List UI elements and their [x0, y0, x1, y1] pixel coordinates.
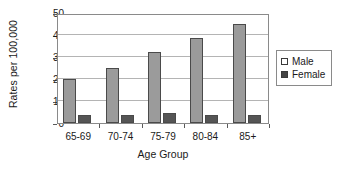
bar-male-85+ [233, 24, 246, 123]
bar-female-80-84 [205, 115, 218, 123]
x-tick-mark [99, 124, 100, 128]
legend-item-male[interactable]: Male [281, 55, 328, 68]
bar-group [58, 15, 100, 123]
bars-layer [58, 15, 268, 123]
y-axis-title: Rates per 100,000 [7, 9, 19, 119]
bar-group [143, 15, 185, 123]
bar-female-85+ [248, 115, 261, 123]
x-tick-mark [184, 124, 185, 128]
x-tick-label: 70-74 [99, 131, 143, 142]
legend-swatch-icon [281, 58, 288, 65]
legend-label: Female [292, 69, 325, 80]
bar-female-70-74 [121, 115, 134, 123]
bar-male-70-74 [106, 68, 119, 123]
plot-area [57, 14, 269, 124]
chart-legend: MaleFemale [276, 50, 332, 86]
legend-item-female[interactable]: Female [281, 68, 328, 81]
bar-male-65-69 [63, 79, 76, 123]
bar-female-75-79 [163, 113, 176, 123]
x-tick-mark [142, 124, 143, 128]
legend-label: Male [292, 56, 314, 67]
bar-group [228, 15, 270, 123]
bar-male-80-84 [190, 38, 203, 123]
x-tick-label: 75-79 [141, 131, 185, 142]
x-tick-mark [227, 124, 228, 128]
x-tick-mark [269, 124, 270, 128]
x-tick-label: 65-69 [56, 131, 100, 142]
bar-male-75-79 [148, 52, 161, 124]
bar-female-65-69 [78, 115, 91, 123]
x-axis-title: Age Group [57, 148, 269, 160]
bar-group [100, 15, 142, 123]
x-tick-label: 85+ [226, 131, 270, 142]
x-tick-label: 80-84 [183, 131, 227, 142]
bar-chart-figure: Rates per 100,000 01020304050 65-6970-74… [0, 0, 337, 170]
legend-swatch-icon [281, 71, 288, 78]
bar-group [185, 15, 227, 123]
